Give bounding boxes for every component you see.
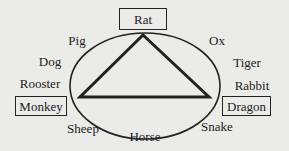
dog-label: Dog — [39, 55, 61, 68]
monkey-label: Monkey — [19, 100, 62, 113]
snake-label: Snake — [201, 120, 233, 133]
sheep-label: Sheep — [67, 122, 99, 135]
horse-label: Horse — [129, 130, 160, 143]
rat-box: Rat — [119, 8, 167, 30]
ox-label: Ox — [209, 34, 225, 47]
rat-label: Rat — [134, 13, 152, 26]
tiger-label: Tiger — [233, 56, 261, 69]
zodiac-triangle-diagram: Rat Monkey Dragon Pig Dog Rooster Ox Tig… — [0, 0, 289, 151]
rooster-label: Rooster — [20, 77, 60, 90]
dragon-label: Dragon — [227, 100, 266, 113]
dragon-box: Dragon — [222, 96, 271, 116]
pig-label: Pig — [68, 34, 85, 47]
rabbit-label: Rabbit — [235, 79, 270, 92]
monkey-box: Monkey — [15, 96, 67, 116]
